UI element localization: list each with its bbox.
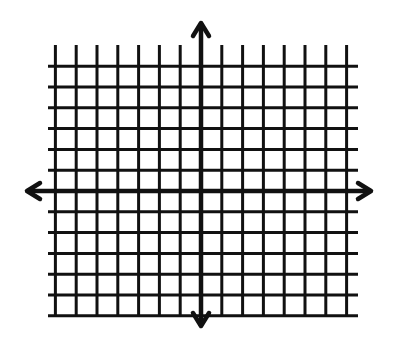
coordinate-plane — [0, 0, 396, 349]
axes — [27, 23, 371, 326]
